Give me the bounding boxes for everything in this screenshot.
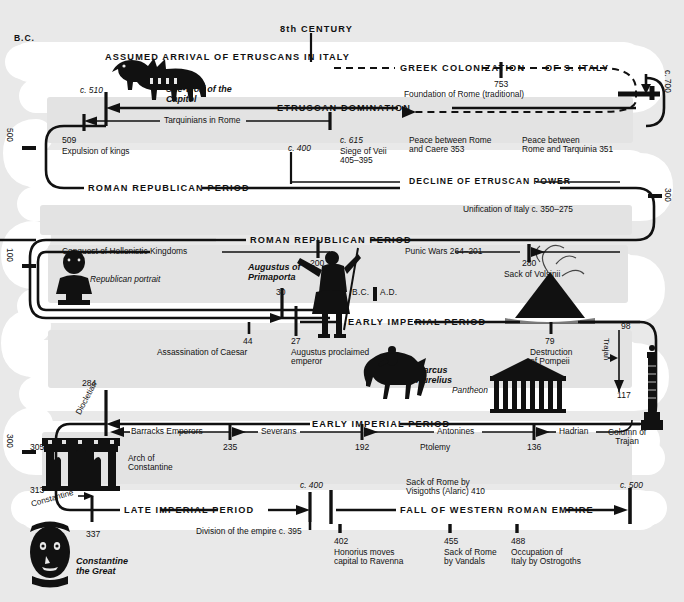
row7-band-late-imperial: LATE IMPERIAL PERIOD (124, 505, 254, 515)
row4-year-200: 200 (310, 259, 324, 269)
row2-subband-tarquinians: Tarquinians in Rome (164, 116, 240, 125)
row6-year-136: 136 (527, 443, 541, 453)
row4-republican-portrait-caption: Republican portrait (90, 275, 160, 284)
row4-augustus-primaporta-caption: Augustus of Primaporta (248, 262, 301, 282)
row7-marker-c500: c. 500 (620, 481, 643, 490)
timeline-diagram: B.C. 500 100 300 305 313 c. 700 300 98 1… (0, 0, 684, 602)
row6-ptolemy-label: Ptolemy (420, 443, 450, 452)
row7-constantine-great-caption: Constantine the Great (76, 556, 128, 576)
row6-subband-severans: Severans (261, 427, 296, 436)
row2-event-siege-of-veii: Siege of Veii 405–395 (340, 147, 387, 166)
row2-marker-c615: c. 615 (340, 136, 363, 145)
row4-subband-punic-wars: Punic Wars 264–201 (405, 247, 482, 256)
row2-year-509: 509 (62, 136, 76, 146)
row2-event-peace-caere: Peace between Rome and Caere 353 (409, 136, 491, 155)
row6-subband-barracks-emperors: Barracks Emperors (131, 427, 203, 436)
row5-event-assassination-caesar: Assassination of Caesar (157, 348, 247, 357)
row5-year-44: 44 (243, 337, 253, 347)
row5-event-destruction-pompeii: Destruction of Pompeii (530, 348, 572, 367)
row2-marker-c400: c. 400 (288, 144, 311, 153)
row3-band-decline-etruscan: DECLINE OF ETRUSCAN POWER (409, 177, 571, 187)
row4-subband-conquest-hellenistic: Conquest of Hellenistic Kingdoms (62, 247, 187, 256)
row7-event-sack-vandals: Sack of Rome by Vandals (444, 548, 497, 567)
left-edge-marker-305: 305 (30, 443, 44, 453)
row7-year-337: 337 (86, 530, 100, 540)
row2-event-peace-tarquinia: Peace between Rome and Tarquinia 351 (522, 136, 613, 155)
row5-band-early-imperial: EARLY IMPERIAL PERIOD (348, 317, 486, 327)
row7-year-488: 488 (511, 537, 525, 547)
row7-band-fall-western-empire: FALL OF WESTERN ROMAN EMPIRE (400, 505, 594, 515)
row5-marcus-aurelius-caption: Marcus Aurelius (416, 365, 452, 385)
right-edge-marker-98: 98 (621, 322, 631, 332)
row6-subband-antonines: Antonines (437, 427, 474, 436)
right-edge-marker-c700: c. 700 (663, 70, 672, 93)
row4-era-bc: B.C. (352, 288, 370, 297)
row7-note-sack-visigoths: Sack of Rome by Visigoths (Alaric) 410 (406, 478, 485, 497)
row1-8th-century-label: 8th CENTURY (280, 24, 353, 34)
left-edge-marker-500: 500 (5, 128, 14, 142)
row4-year-280: 280 (522, 259, 536, 269)
row4-marker-30: 30 (276, 288, 286, 298)
row6-year-192: 192 (355, 443, 369, 453)
row4-band-roman-republican: ROMAN REPUBLICAN PERIOD (250, 235, 412, 245)
left-edge-marker-300: 300 (5, 434, 14, 448)
row1-band-of-s-italy: OF S. ITALY (545, 63, 609, 73)
row1-band-assumed-arrival: ASSUMED ARRIVAL OF ETRUSCANS IN ITALY (105, 52, 350, 62)
row5-year-79: 79 (545, 337, 555, 347)
row5-year-27: 27 (291, 337, 301, 347)
row1-band-greek-colonization: GREEK COLONIZATION (400, 63, 525, 73)
row4-event-sack-of-volsinii: Sack of Volsinii (504, 270, 560, 279)
era-label-bc: B.C. (14, 34, 35, 44)
row7-event-honorius-ravenna: Honorius moves capital to Ravenna (334, 548, 403, 567)
trajan-vertical-label: Trajan (601, 338, 610, 360)
left-edge-marker-100: 100 (5, 248, 14, 262)
row6-arch-constantine-caption: Arch of Constantine (128, 454, 173, 473)
row2-event-expulsion-of-kings: Expulsion of kings (62, 147, 130, 156)
row5-pantheon-caption: Pantheon (452, 386, 488, 395)
row5-event-augustus-emperor: Augustus proclaimed emperor (291, 348, 369, 367)
row7-note-division-empire: Division of the empire c. 395 (196, 527, 302, 536)
row5-column-trajan-caption: Column of Trajan (608, 428, 646, 447)
row2-marker-c510: c. 510 (80, 86, 103, 95)
row4-era-ad: A.D. (380, 288, 398, 297)
row2-she-wolf-caption: She-Wolf of the Capitol (166, 84, 232, 104)
row3-note-unification: Unification of Italy c. 350–275 (463, 205, 573, 214)
row3-band-roman-republican: ROMAN REPUBLICAN PERIOD (88, 183, 250, 193)
row6-band-early-imperial: EARLY IMPERIAL PERIOD (312, 419, 450, 429)
right-edge-marker-300: 300 (663, 188, 672, 202)
row6-subband-hadrian: Hadrian (559, 427, 588, 436)
row7-marker-c400: c. 400 (300, 481, 323, 490)
constantine-head-figure (30, 522, 70, 588)
row7-event-ostrogoths: Occupation of Italy by Ostrogoths (511, 548, 581, 567)
arch-of-constantine-figure (42, 438, 120, 491)
row1-event-foundation-of-rome: Foundation of Rome (traditional) (404, 90, 524, 99)
left-edge-marker-313: 313 (30, 486, 44, 496)
row7-year-402: 402 (334, 537, 348, 547)
row7-year-455: 455 (444, 537, 458, 547)
row6-year-235: 235 (223, 443, 237, 453)
right-edge-marker-117: 117 (617, 391, 631, 401)
row2-band-etruscan-domination: ETRUSCAN DOMINATION (277, 103, 411, 113)
